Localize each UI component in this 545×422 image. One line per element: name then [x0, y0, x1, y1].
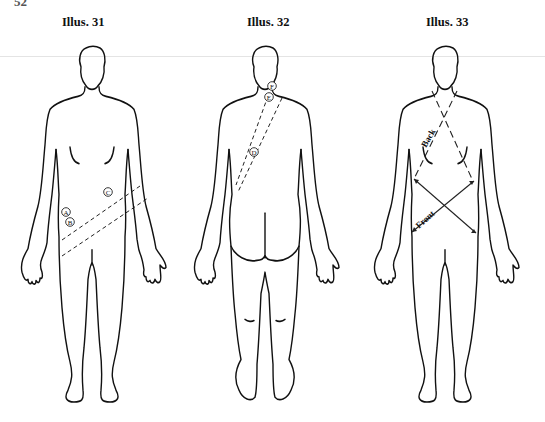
back-label: Back: [419, 127, 437, 149]
marker-d: D: [250, 148, 259, 157]
svg-text:E: E: [267, 94, 271, 102]
svg-text:A: A: [63, 209, 68, 217]
illus-33-body-front: [374, 46, 519, 402]
illustrations-canvas: A B C F E D Back Front: [0, 0, 545, 422]
svg-text:B: B: [68, 219, 73, 227]
marker-a: A: [62, 208, 71, 217]
marker-b: B: [66, 218, 75, 227]
svg-text:D: D: [251, 149, 256, 157]
illus-32-bandage-band: [236, 96, 282, 192]
marker-c: C: [104, 188, 113, 197]
svg-text:F: F: [270, 83, 274, 91]
svg-text:C: C: [106, 189, 111, 197]
illus-31-body-front: [21, 46, 166, 402]
front-label: Front: [414, 208, 437, 230]
marker-f: F: [268, 82, 277, 91]
illus-33-back-path: [414, 91, 472, 179]
marker-e: E: [265, 93, 274, 102]
